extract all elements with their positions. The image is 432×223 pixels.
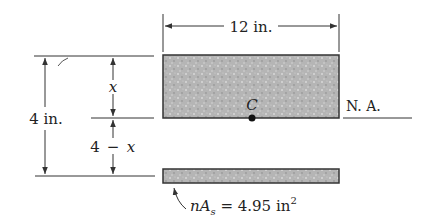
height-dimension: 4 in. bbox=[29, 58, 68, 174]
steel-label-A: A bbox=[198, 197, 211, 215]
minus-label: − bbox=[107, 138, 120, 156]
steel-label-sup: 2 bbox=[290, 195, 296, 206]
transformed-section-diagram: 12 in. C N. A. 4 in. x 4 − x nAs = 4.95 … bbox=[0, 0, 432, 223]
x-label: x bbox=[109, 78, 118, 96]
steel-leader-arrow bbox=[174, 188, 186, 209]
centroid-dot bbox=[249, 115, 256, 122]
x-dimension: x bbox=[109, 58, 118, 116]
width-dimension: 12 in. bbox=[163, 14, 339, 52]
steel-area-label: nAs = 4.95 in2 bbox=[190, 195, 297, 217]
transformed-steel-area bbox=[163, 169, 339, 183]
four-label: 4 bbox=[90, 138, 100, 156]
steel-label-n: n bbox=[190, 197, 200, 215]
centroid-label: C bbox=[246, 96, 258, 114]
width-label: 12 in. bbox=[229, 18, 272, 36]
x-label-2: x bbox=[127, 138, 136, 156]
height-label: 4 in. bbox=[29, 110, 63, 128]
neutral-axis-label: N. A. bbox=[346, 98, 381, 114]
steel-label-eq: = 4.95 in bbox=[216, 197, 291, 215]
tick-mark bbox=[58, 58, 68, 66]
four-minus-x-dimension: 4 − x bbox=[90, 120, 136, 174]
